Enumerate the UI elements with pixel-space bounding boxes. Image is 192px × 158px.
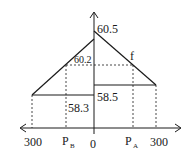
supply-demand-diagram: 60.5 60.2 f 58.5 58.3 300 P B 0 P A 300: [0, 0, 192, 158]
left-300-label: 300: [24, 135, 42, 149]
right-demand-line-f: [94, 31, 156, 85]
right-base-label: 58.5: [97, 90, 118, 104]
right-300-label: 300: [150, 135, 168, 149]
left-base-label: 58.3: [68, 101, 89, 115]
origin-label: 0: [90, 137, 96, 151]
pb-label: P: [62, 134, 69, 148]
pa-label: P: [125, 134, 132, 148]
pb-subscript: B: [70, 142, 75, 150]
left-supply-line: [32, 39, 94, 95]
left-peak-label: 60.2: [74, 54, 92, 65]
curve-f-label: f: [130, 49, 134, 63]
y-peak-label: 60.5: [97, 22, 118, 36]
pa-subscript: A: [133, 142, 138, 150]
